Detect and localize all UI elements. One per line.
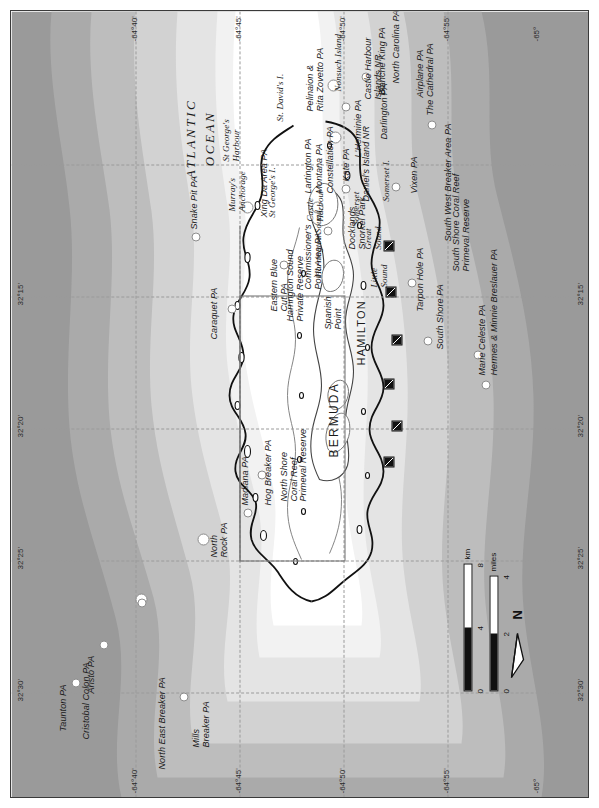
- grid-label-lon-right-3: -64°50': [337, 16, 346, 41]
- grid-label-lat-bottom-3: 32°20': [575, 414, 584, 437]
- grid-label-lon-left-1: -64°40': [129, 768, 138, 793]
- north-arrow-label: N: [509, 610, 524, 619]
- grid-label-lat-top-2: 32°25': [15, 546, 24, 569]
- scale-km-tick-max: 8: [475, 563, 484, 567]
- scale-miles-unit: miles: [488, 552, 497, 571]
- grid-label-lon-right-1: -64°40': [129, 16, 138, 41]
- grid-label-lat-bottom-4: 32°15': [575, 282, 584, 305]
- scale-km-tick-mid: 4: [475, 626, 484, 630]
- grid-label-lat-bottom-2: 32°25': [575, 546, 584, 569]
- grid-label-lon-left-2: -64°45': [233, 768, 242, 793]
- map-frame: ATLANTIC OCEAN BERMUDA HAMILTON Taunton …: [10, 10, 589, 798]
- grid-label-lon-left-4: -64°55': [441, 768, 450, 793]
- map-decorations: N 0 4 8 km 0 2: [11, 11, 588, 797]
- scale-miles-tick-mid: 2: [501, 632, 510, 636]
- scale-miles-tick-max: 4: [501, 575, 510, 579]
- scale-km-tick-0: 0: [475, 689, 484, 693]
- grid-label-lat-top-3: 32°20': [15, 414, 24, 437]
- scale-miles-tick-0: 0: [501, 689, 510, 693]
- map-canvas-rotated: ATLANTIC OCEAN BERMUDA HAMILTON Taunton …: [11, 11, 588, 797]
- grid-label-lat-bottom-1: 32°30': [575, 678, 584, 701]
- scale-bar-km: 0 4 8 km: [463, 561, 483, 691]
- grid-label-lon-right-4: -64°55': [441, 16, 450, 41]
- grid-label-lat-top-1: 32°30': [15, 678, 24, 701]
- grid-label-lon-left-5: -65°: [531, 778, 540, 793]
- grid-label-lon-right-5: -65°: [531, 26, 540, 41]
- map-page: ATLANTIC OCEAN BERMUDA HAMILTON Taunton …: [0, 0, 599, 808]
- scale-bar-miles: 0 2 4 miles: [489, 561, 509, 691]
- grid-label-lon-right-2: -64°45': [233, 16, 242, 41]
- grid-label-lon-left-3: -64°50': [337, 768, 346, 793]
- scale-km-unit: km: [462, 548, 471, 559]
- grid-label-lat-top-4: 32°15': [15, 282, 24, 305]
